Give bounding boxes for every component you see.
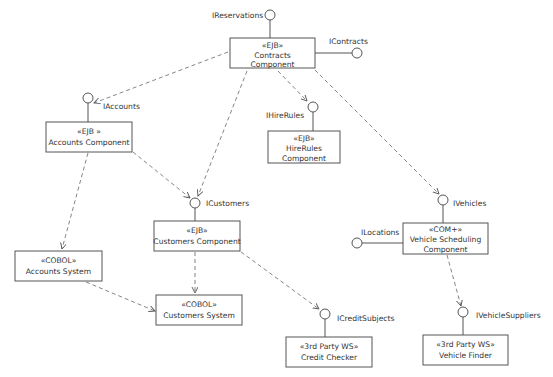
- interface-circle-icon: [320, 309, 330, 319]
- interface-circle-icon: [190, 198, 200, 208]
- interface-circle-icon: [352, 238, 362, 248]
- stereotype: «3rd Party WS»: [436, 340, 495, 349]
- component-name: Accounts System: [26, 267, 91, 276]
- dep-accountssystem-to-customerssystem: [86, 282, 155, 311]
- component-credit-checker[interactable]: «3rd Party WS» Credit Checker: [286, 337, 372, 367]
- component-name: Customers System: [163, 311, 235, 320]
- interface-label: ICustomers: [206, 199, 249, 208]
- stereotype: «EJB»: [186, 226, 208, 235]
- interface-label: IContracts: [329, 37, 368, 46]
- interface-label: IVehicleSuppliers: [476, 311, 541, 320]
- stereotype: «COBOL»: [41, 256, 77, 265]
- stereotype: «EJB »: [77, 127, 101, 136]
- component-accounts[interactable]: «EJB » Accounts Component: [46, 122, 132, 152]
- interface-label: IReservations: [212, 11, 263, 20]
- component-name: Vehicle Scheduling: [410, 235, 482, 244]
- dep-contracts-to-icustomers: [198, 71, 247, 196]
- interface-circle-icon: [438, 195, 448, 205]
- interface-label: ILocations: [361, 228, 399, 237]
- component-accounts-system[interactable]: «COBOL» Accounts System: [15, 251, 102, 281]
- stereotype: «EJB»: [262, 41, 284, 50]
- interface-iaccounts[interactable]: IAccounts: [83, 93, 140, 122]
- interface-ihirerules[interactable]: IHireRules: [266, 102, 318, 131]
- interface-label: IVehicles: [453, 199, 486, 208]
- interface-icreditsubjects[interactable]: ICreditSubjects: [320, 309, 394, 337]
- interface-ivehicles[interactable]: IVehicles: [438, 195, 486, 223]
- interface-icontracts[interactable]: IContracts: [315, 37, 368, 58]
- dep-contracts-to-ihirerules: [278, 71, 307, 101]
- component-name-line2: Component: [423, 245, 467, 254]
- component-hirerules[interactable]: «EJB» HireRules Component: [268, 131, 340, 163]
- interface-label: IHireRules: [266, 111, 304, 120]
- component-vehicle-finder[interactable]: «3rd Party WS» Vehicle Finder: [423, 335, 508, 365]
- component-name: Accounts Component: [48, 138, 129, 147]
- stereotype: «COM+»: [429, 225, 463, 234]
- component-contracts[interactable]: «EJB» Contracts Component: [230, 38, 315, 69]
- dep-accounts-to-accountssystem: [62, 153, 88, 249]
- interface-ivehiclesuppliers[interactable]: IVehicleSuppliers: [458, 307, 541, 335]
- dependency-arrows: [62, 52, 461, 311]
- component-vehicle-scheduling[interactable]: «COM+» Vehicle Scheduling Component: [403, 223, 488, 254]
- interface-label: IAccounts: [103, 102, 140, 111]
- dep-accounts-to-icustomers: [133, 152, 190, 198]
- interface-circle-icon: [265, 10, 275, 20]
- component-name-line2: Component: [250, 60, 294, 69]
- component-name: Customers Component: [153, 237, 240, 246]
- interface-circle-icon: [308, 102, 318, 112]
- stereotype: «EJB»: [293, 134, 315, 143]
- interface-label: ICreditSubjects: [337, 314, 394, 323]
- component-name: Contracts: [254, 51, 291, 60]
- component-name: Vehicle Finder: [439, 351, 493, 360]
- component-customers-system[interactable]: «COBOL» Customers System: [156, 295, 242, 325]
- interface-icustomers[interactable]: ICustomers: [190, 198, 249, 221]
- component-name-line2: Component: [282, 154, 326, 163]
- interface-ireservations[interactable]: IReservations: [212, 10, 275, 38]
- interface-circle-icon: [458, 307, 468, 317]
- dep-vehiclescheduling-to-ivehiclesuppliers: [447, 255, 461, 306]
- stereotype: «COBOL»: [181, 300, 217, 309]
- component-name: HireRules: [286, 144, 322, 153]
- stereotype: «3rd Party WS»: [300, 342, 359, 351]
- component-customers[interactable]: «EJB» Customers Component: [153, 221, 240, 251]
- component-diagram: IReservations IContracts IAccounts IHire…: [0, 0, 553, 377]
- interface-ilocations[interactable]: ILocations: [352, 228, 403, 248]
- dep-customers-to-icreditsubjects: [241, 252, 319, 309]
- interface-circle-icon: [83, 93, 93, 103]
- interface-circle-icon: [352, 48, 362, 58]
- component-name: Credit Checker: [301, 353, 358, 362]
- dep-contracts-to-iaccounts: [94, 52, 228, 103]
